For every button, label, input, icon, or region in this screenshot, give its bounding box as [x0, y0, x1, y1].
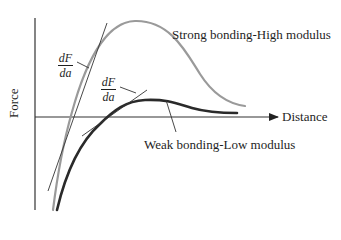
weak-tangent-leader — [120, 87, 136, 93]
slope-denominator: da — [103, 91, 115, 103]
slope-denominator: da — [60, 67, 72, 79]
slope-numerator: dF — [59, 52, 72, 64]
slope-numerator: dF — [102, 76, 115, 88]
strong-tangent-line — [48, 23, 107, 191]
strong-bonding-label: Strong bonding-High modulus — [172, 27, 331, 43]
strong-bonding-curve — [53, 21, 245, 210]
weak-bonding-curve — [57, 100, 237, 210]
strong-tangent-leader — [77, 62, 89, 68]
weak-tangent-slope-label: dF da — [101, 76, 116, 103]
y-axis-label: Force — [6, 88, 22, 118]
weak-label-leader — [166, 100, 176, 132]
x-axis-label: Distance — [282, 109, 327, 125]
weak-bonding-label: Weak bonding-Low modulus — [144, 137, 295, 153]
strong-tangent-slope-label: dF da — [58, 52, 73, 79]
